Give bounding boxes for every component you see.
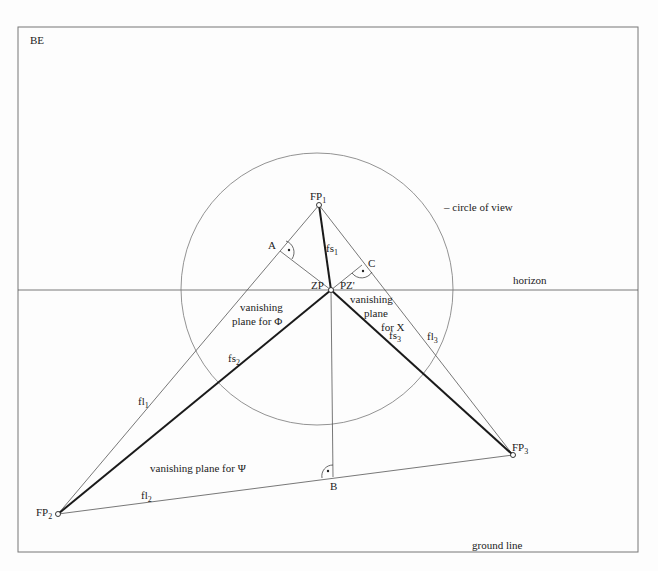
frame-label: BE [30,34,44,46]
right-angle-c [352,272,372,278]
plane-psi-label: vanishing plane for Ψ [150,462,247,474]
fp2-label: FP2 [36,506,52,521]
pz-label: PZ' [340,279,355,291]
fs3-line [331,290,513,455]
picture-frame [18,27,638,552]
circle-of-view-label: – circle of view [443,201,513,213]
ground-line-label: ground line [472,539,523,551]
fl2-label: fl2 [141,489,152,504]
fl2-line [58,455,513,514]
fs2-label: fs2 [228,352,240,367]
point-c-label: C [368,257,375,269]
right-angle-dot-b [327,470,329,472]
right-angle-dot-c [362,270,364,272]
perspective-diagram: BE FP1 FP2 FP3 ZP PZ' A C B fs1 fs2 fs3 … [0,0,658,571]
horizon-label: horizon [513,274,547,286]
fl3-label: fl3 [427,330,438,345]
point-fp1 [317,203,322,208]
fs2-line [58,290,331,514]
plane-x-label-line1: vanishing [350,293,393,305]
right-angle-dot-a [288,249,290,251]
point-zp [329,288,334,293]
plane-phi-label-line2: plane for Φ [232,315,282,327]
plane-x-label-line3: for X [381,321,405,333]
point-a-label: A [268,239,276,251]
altitude-b [331,290,333,477]
zp-label: ZP [311,279,324,291]
fs1-label: fs1 [326,242,338,257]
plane-phi-label-line1: vanishing [240,301,283,313]
plane-x-label-line2: plane [364,307,388,319]
fl3-line [319,205,513,455]
fl1-label: fl1 [138,395,149,410]
point-fp2 [56,512,61,517]
point-b-label: B [330,480,337,492]
point-fp3 [511,453,516,458]
